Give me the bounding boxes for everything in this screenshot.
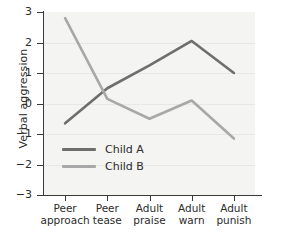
x-axis-tick-label-line: Adult (205, 203, 263, 215)
x-axis-tick-label: Adultpunish (205, 203, 263, 226)
y-axis-tick (37, 104, 43, 105)
legend-item-child-a: Child A (62, 141, 144, 158)
y-axis-tick (37, 12, 43, 13)
gridline (44, 104, 255, 105)
legend-swatch-child-a (62, 148, 96, 151)
x-axis-tick (150, 195, 151, 201)
y-axis-tick-label: 2 (12, 37, 32, 48)
legend-label-child-a: Child A (105, 143, 144, 156)
gridline (44, 73, 255, 74)
y-axis-tick-label: −1 (12, 128, 32, 139)
legend-label-child-b: Child B (105, 160, 144, 173)
legend: Child A Child B (62, 141, 144, 175)
y-axis-tick (37, 43, 43, 44)
y-axis-tick-label: 3 (12, 6, 32, 17)
x-axis-tick-label-line: punish (205, 215, 263, 227)
y-axis-tick-label: −3 (12, 189, 32, 200)
x-axis-tick (234, 195, 235, 201)
legend-swatch-child-b (62, 165, 96, 168)
y-axis-tick (37, 165, 43, 166)
gridline (44, 134, 255, 135)
x-axis-tick (65, 195, 66, 201)
line-chart: Verbal aggression 3210−1−2−3 Peerapproac… (0, 0, 283, 237)
y-axis-tick-label: 1 (12, 67, 32, 78)
y-axis-tick (37, 134, 43, 135)
y-axis-tick-label: 0 (12, 98, 32, 109)
y-axis-tick-label: −2 (12, 159, 32, 170)
legend-item-child-b: Child B (62, 158, 144, 175)
x-axis-tick (192, 195, 193, 201)
y-axis-tick (37, 195, 43, 196)
gridline (44, 43, 255, 44)
y-axis-tick (37, 73, 43, 74)
x-axis-tick (107, 195, 108, 201)
y-axis-line (43, 11, 44, 196)
